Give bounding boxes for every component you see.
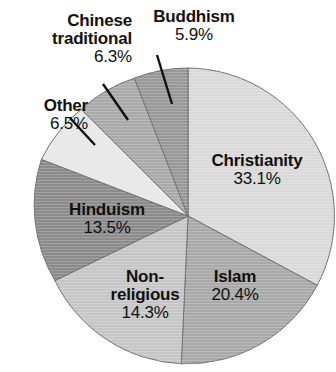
pie-label-chinese-traditional-value: 6.3% [14, 48, 132, 66]
pie-label-chinese-traditional: Chinese traditional 6.3% [14, 12, 132, 66]
pie-label-non-religious-line1: Non- [104, 268, 186, 286]
pie-label-islam-line1: Islam [192, 268, 278, 286]
pie-label-hinduism-line1: Hinduism [52, 201, 162, 219]
pie-label-christianity-line1: Christianity [196, 152, 318, 170]
pie-label-hinduism: Hinduism 13.5% [52, 201, 162, 237]
pie-label-buddhism-line1: Buddhism [140, 8, 248, 26]
pie-label-hinduism-value: 13.5% [52, 219, 162, 237]
pie-label-non-religious: Non- religious 14.3% [104, 268, 186, 322]
pie-label-chinese-traditional-line2: traditional [14, 30, 132, 48]
pie-chart: Chinese traditional 6.3% Buddhism 5.9% O… [0, 0, 336, 372]
pie-label-buddhism-value: 5.9% [140, 26, 248, 44]
pie-label-non-religious-value: 14.3% [104, 304, 186, 322]
pie-label-other: Other 6.5% [4, 97, 88, 133]
pie-label-buddhism: Buddhism 5.9% [140, 8, 248, 44]
pie-label-non-religious-line2: religious [104, 286, 186, 304]
pie-label-christianity-value: 33.1% [196, 170, 318, 188]
pie-label-islam: Islam 20.4% [192, 268, 278, 304]
pie-label-other-line1: Other [4, 97, 88, 115]
pie-label-christianity: Christianity 33.1% [196, 152, 318, 188]
pie-label-islam-value: 20.4% [192, 286, 278, 304]
pie-label-chinese-traditional-line1: Chinese [14, 12, 132, 30]
pie-label-other-value: 6.5% [4, 115, 88, 133]
